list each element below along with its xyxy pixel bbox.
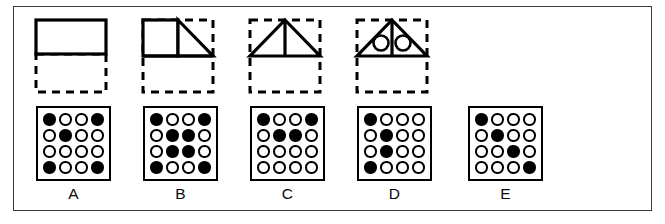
dot-filled [182, 145, 195, 158]
option-c[interactable]: C [235, 6, 340, 211]
dot-open [396, 145, 409, 158]
dot-grid [357, 106, 432, 181]
dot-open [257, 161, 270, 174]
dot-open [59, 113, 72, 126]
dot-open [91, 145, 104, 158]
dot-filled [150, 161, 163, 174]
option-c-shape [235, 14, 340, 100]
dot-grid [468, 106, 543, 181]
dot-open [412, 113, 425, 126]
dot-open [150, 145, 163, 158]
square-and-triangle-over-dashed-box-icon [135, 14, 227, 96]
dot-filled [43, 161, 56, 174]
dot-open [150, 129, 163, 142]
dot-open [491, 113, 504, 126]
option-d-shape [342, 14, 447, 100]
dot-open [75, 129, 88, 142]
dot-filled [91, 113, 104, 126]
dot-filled [59, 129, 72, 142]
dot-open [507, 161, 520, 174]
dot-filled [475, 113, 488, 126]
dot-open [380, 113, 393, 126]
option-e-grid-wrap: E [453, 106, 558, 202]
triangle-with-median-over-dashed-box-icon [242, 14, 334, 96]
dot-filled [380, 129, 393, 142]
dot-open [289, 161, 302, 174]
dot-open [273, 113, 286, 126]
option-d-grid-wrap: D [342, 106, 447, 202]
option-d[interactable]: D [342, 6, 447, 211]
dot-open [59, 161, 72, 174]
dot-open [491, 145, 504, 158]
options-row: A B [13, 6, 652, 211]
dot-open [305, 161, 318, 174]
dot-filled [257, 113, 270, 126]
triangle-with-two-circles-over-dashed-box-icon [349, 14, 441, 96]
dot-open [273, 161, 286, 174]
dot-open [289, 145, 302, 158]
option-b-grid-wrap: B [128, 106, 233, 202]
option-label: C [282, 185, 293, 202]
dot-open [523, 113, 536, 126]
dot-open [412, 145, 425, 158]
dot-open [289, 113, 302, 126]
dot-filled [364, 161, 377, 174]
option-b[interactable]: B [128, 6, 233, 211]
option-label: E [500, 185, 511, 202]
dot-open [305, 129, 318, 142]
dot-open [305, 145, 318, 158]
option-a[interactable]: A [21, 6, 126, 211]
dot-open [75, 113, 88, 126]
option-label: B [175, 185, 186, 202]
dot-filled [166, 129, 179, 142]
dot-open [75, 145, 88, 158]
dot-grid [250, 106, 325, 181]
dot-open [43, 145, 56, 158]
dot-open [182, 113, 195, 126]
dot-open [166, 161, 179, 174]
dot-open [396, 161, 409, 174]
dot-open [396, 113, 409, 126]
option-a-grid-wrap: A [21, 106, 126, 202]
dot-filled [289, 129, 302, 142]
rectangle-over-dashed-box-icon [28, 14, 120, 96]
dot-open [166, 113, 179, 126]
dot-filled [305, 113, 318, 126]
option-e-shape-empty [453, 14, 558, 100]
dot-filled [198, 161, 211, 174]
dot-open [380, 161, 393, 174]
dot-open [475, 161, 488, 174]
dot-filled [166, 145, 179, 158]
dot-filled [507, 145, 520, 158]
option-label: A [68, 185, 79, 202]
dot-open [75, 161, 88, 174]
dot-open [364, 129, 377, 142]
dot-filled [273, 129, 286, 142]
dot-open [257, 129, 270, 142]
dot-open [412, 161, 425, 174]
dot-filled [380, 145, 393, 158]
dot-open [491, 161, 504, 174]
dot-grid [143, 106, 218, 181]
dot-filled [364, 113, 377, 126]
dot-open [273, 145, 286, 158]
dot-open [91, 129, 104, 142]
dot-open [507, 129, 520, 142]
option-label: D [389, 185, 400, 202]
dot-open [182, 161, 195, 174]
option-e[interactable]: E [453, 6, 558, 211]
answer-options-figure: A B [0, 0, 665, 224]
dot-filled [491, 129, 504, 142]
dot-filled [198, 113, 211, 126]
dot-open [412, 129, 425, 142]
dot-filled [91, 161, 104, 174]
dot-open [364, 145, 377, 158]
dot-open [523, 129, 536, 142]
dot-open [523, 145, 536, 158]
dot-open [396, 129, 409, 142]
dot-open [198, 145, 211, 158]
option-a-shape [21, 14, 126, 100]
dot-open [475, 145, 488, 158]
dot-open [475, 129, 488, 142]
dot-open [59, 145, 72, 158]
